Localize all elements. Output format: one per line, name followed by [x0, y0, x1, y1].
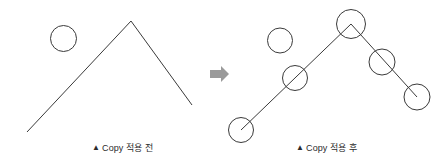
figure-container: ▲Copy 적용 전 ▲Copy 적용 후: [0, 0, 444, 167]
caption-before-label: Copy 적용 전: [102, 143, 153, 153]
copied-circle-4: [369, 49, 395, 75]
figure-canvas: [0, 0, 444, 167]
source-circle-after: [268, 28, 293, 53]
right-arrow-icon: [210, 66, 229, 82]
path-polyline-before: [27, 21, 192, 132]
caption-before: ▲Copy 적용 전: [92, 142, 153, 154]
caption-marker-icon: ▲: [92, 143, 100, 152]
caption-after-label: Copy 적용 후: [306, 143, 357, 153]
caption-after: ▲Copy 적용 후: [296, 142, 357, 154]
caption-marker-icon: ▲: [296, 143, 304, 152]
panel-before: [27, 21, 192, 132]
panel-after: [229, 10, 431, 143]
source-circle-before: [51, 26, 77, 52]
